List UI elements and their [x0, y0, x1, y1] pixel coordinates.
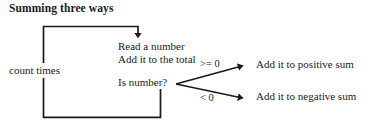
process-step-line-1: Read a number — [118, 40, 196, 53]
outcome-positive-sum: Add it to positive sum — [256, 58, 354, 71]
loop-return-connector — [44, 89, 161, 117]
process-step-line-2: Add it to the total — [118, 53, 196, 66]
flowchart-diagram: Summing three ways count times Read a nu… — [0, 0, 372, 130]
decision-node-label: Is number? — [118, 76, 167, 89]
outcome-negative-sum: Add it to negative sum — [256, 90, 356, 103]
loop-count-label: count times — [9, 64, 60, 77]
diagram-title: Summing three ways — [9, 2, 113, 16]
process-step-block: Read a number Add it to the total — [118, 40, 196, 66]
branch-condition-negative: < 0 — [200, 92, 214, 104]
branch-condition-positive: >= 0 — [200, 58, 220, 70]
